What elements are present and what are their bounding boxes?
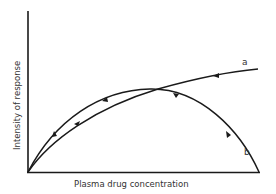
response-concentration-chart: a b Plasma drug concentration Intensity … bbox=[0, 0, 276, 194]
curve-b-label: b bbox=[244, 147, 250, 157]
arrow-icon bbox=[226, 131, 231, 138]
x-axis-label: Plasma drug concentration bbox=[74, 179, 189, 189]
curve-b bbox=[28, 89, 259, 172]
y-axis-label: Intensity of response bbox=[12, 61, 22, 150]
arrow-icon bbox=[173, 93, 179, 98]
curve-a-label: a bbox=[242, 57, 248, 67]
